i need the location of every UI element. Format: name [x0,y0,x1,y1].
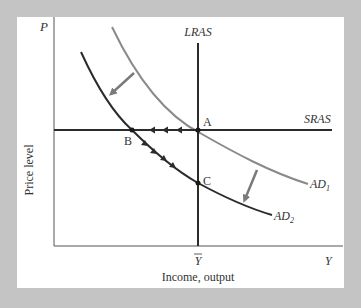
lras-label: LRAS [183,25,211,39]
x-tick-label: Y [195,254,203,268]
point-c [196,181,201,186]
figure: P Price level LRAS SRAS A B C AD1 AD2 Y … [0,0,361,308]
y-axis-symbol: P [39,19,48,34]
point-b [130,128,135,133]
x-axis-symbol: Y [325,254,333,268]
ad-as-diagram: P Price level LRAS SRAS A B C AD1 AD2 Y … [0,0,361,308]
ad1-main: AD [309,177,326,191]
ad1-label: AD1 [309,177,330,193]
point-a [196,128,201,133]
ad2-subscript: 2 [290,216,294,225]
adjustment-arrows-a-to-b [149,127,182,134]
ad1-curve [112,27,308,184]
point-c-label: C [203,174,211,188]
ad2-main: AD [273,209,290,223]
x-axis-label: Income, output [162,270,235,284]
ad2-curve [81,52,272,215]
sras-label: SRAS [304,112,331,126]
ad1-subscript: 1 [326,184,330,193]
shift-arrow-upper [112,73,134,93]
point-a-label: A [203,115,212,129]
shift-arrow-lower [245,170,257,199]
x-tick-ybar: Y [194,254,203,268]
y-axis-label: Price level [22,144,36,196]
ad2-label: AD2 [273,209,294,225]
point-b-label: B [124,134,132,148]
